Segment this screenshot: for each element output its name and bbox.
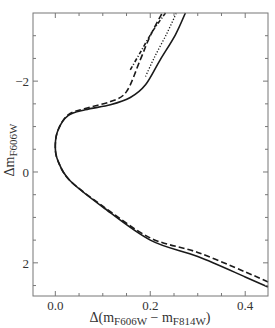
y-tick-label: 2 <box>23 256 30 271</box>
axis-ticks <box>33 13 268 296</box>
chart: 0.00.20.4−202 Δ(mF606W − mF814W) ΔmF606W <box>0 0 275 328</box>
x-tick-label: 0.0 <box>47 298 63 313</box>
plot-frame <box>33 13 268 296</box>
y-tick-label: 0 <box>23 165 30 180</box>
x-axis-label: Δ(mF606W − mF814W) <box>89 310 210 327</box>
series-dashed <box>55 13 268 282</box>
y-tick-label: −2 <box>15 74 29 89</box>
series-dotted <box>146 13 177 77</box>
y-axis-label: ΔmF606W <box>2 123 19 177</box>
x-tick-label: 0.4 <box>237 298 254 313</box>
plot-curves <box>55 13 268 287</box>
tick-labels: 0.00.20.4−202 <box>15 74 254 313</box>
series-solid <box>55 13 268 287</box>
